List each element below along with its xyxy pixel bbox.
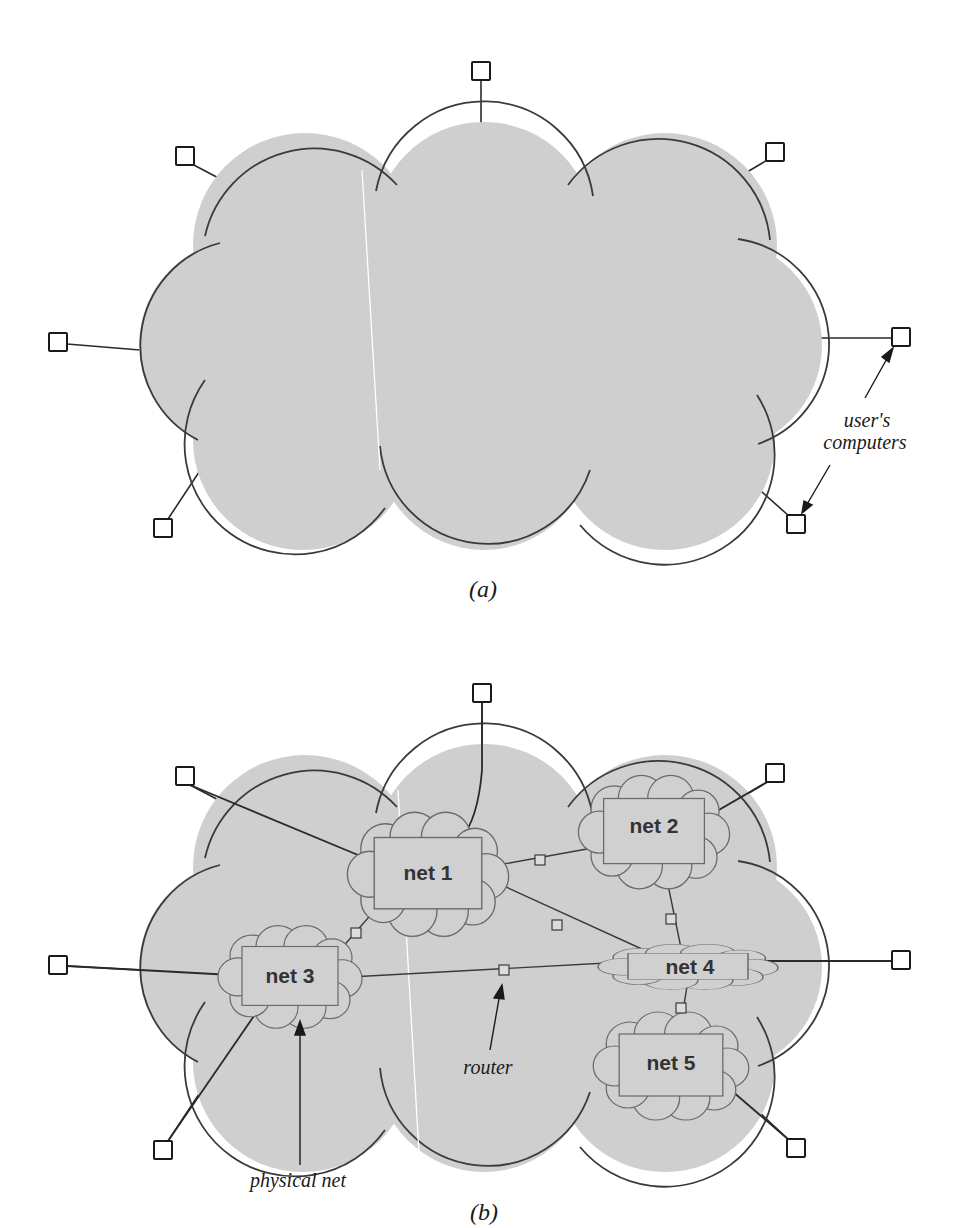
computer-icon [49, 956, 67, 974]
computer-icon [154, 1141, 172, 1159]
arrow-head-icon [802, 501, 812, 513]
net2-label: net 2 [629, 814, 678, 837]
figure-b: net 1 net 2 net 3 net 4 net 5 [49, 684, 910, 1225]
net4-label: net 4 [665, 955, 714, 978]
figure-a: user's computers (a) [49, 62, 910, 602]
computer-icon [766, 143, 784, 161]
computer-icon [892, 328, 910, 346]
router-icon [552, 920, 562, 930]
computer-icon [154, 519, 172, 537]
internet-cloud-a [139, 122, 822, 550]
computer-icon [787, 1139, 805, 1157]
computer-icon [787, 515, 805, 533]
net1-label: net 1 [403, 861, 452, 884]
computer-icon [49, 333, 67, 351]
router-icon [676, 1003, 686, 1013]
router-icon [351, 928, 361, 938]
computer-icon [176, 767, 194, 785]
net3-label: net 3 [265, 964, 314, 987]
router-icon [499, 965, 509, 975]
router-annotation-label: router [463, 1056, 512, 1078]
caption-a: (a) [469, 576, 497, 602]
annotation-computers-label: computers [823, 431, 907, 454]
physical-net-annotation-label: physical net [248, 1169, 347, 1192]
arrow-head-icon [882, 348, 893, 362]
computer-icon [766, 764, 784, 782]
computer-icon [892, 951, 910, 969]
router-icon [666, 914, 676, 924]
internet-diagram-figure: user's computers (a) [0, 0, 966, 1228]
computer-icon [472, 62, 490, 80]
caption-b: (b) [470, 1199, 498, 1225]
computer-icon [176, 147, 194, 165]
computer-icon [473, 684, 491, 702]
net5-label: net 5 [646, 1051, 695, 1074]
annotation-users-label: user's [844, 409, 891, 431]
router-icon [535, 855, 545, 865]
